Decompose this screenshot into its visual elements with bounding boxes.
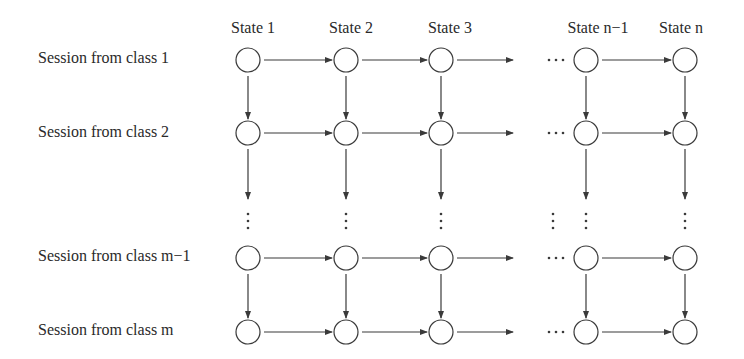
ellipsis-vertical-dot <box>552 213 555 216</box>
ellipsis-horizontal-dot <box>548 257 551 260</box>
ellipsis-vertical-dot <box>345 213 348 216</box>
state-node <box>574 121 598 145</box>
state-node <box>236 48 260 72</box>
ellipsis-horizontal-dot <box>562 331 565 334</box>
ellipsis-vertical-dot <box>684 220 687 223</box>
diagram-graphics <box>0 0 744 359</box>
ellipsis-vertical-dot <box>247 227 250 230</box>
state-node <box>429 48 453 72</box>
ellipsis-horizontal-dot <box>555 132 558 135</box>
state-node <box>673 246 697 270</box>
ellipsis-horizontal-dot <box>548 132 551 135</box>
ellipsis-horizontal-dot <box>562 257 565 260</box>
ellipsis-vertical-dot <box>440 213 443 216</box>
state-node <box>334 48 358 72</box>
state-node <box>236 320 260 344</box>
ellipsis-vertical-dot <box>684 227 687 230</box>
ellipsis-vertical-dot <box>247 220 250 223</box>
state-node <box>334 246 358 270</box>
state-node <box>429 121 453 145</box>
ellipsis-vertical-dot <box>440 227 443 230</box>
state-node <box>574 320 598 344</box>
ellipsis-horizontal-dot <box>548 331 551 334</box>
state-node <box>236 246 260 270</box>
ellipsis-vertical-dot <box>684 213 687 216</box>
state-node <box>673 48 697 72</box>
state-node <box>673 121 697 145</box>
ellipsis-vertical-dot <box>552 220 555 223</box>
ellipsis-horizontal-dot <box>555 257 558 260</box>
ellipsis-vertical-dot <box>552 227 555 230</box>
ellipsis-vertical-dot <box>585 220 588 223</box>
ellipsis-horizontal-dot <box>562 59 565 62</box>
ellipsis-horizontal-dot <box>555 59 558 62</box>
state-node <box>429 320 453 344</box>
state-node <box>673 320 697 344</box>
state-node <box>236 121 260 145</box>
ellipsis-vertical-dot <box>440 220 443 223</box>
ellipsis-horizontal-dot <box>562 132 565 135</box>
ellipsis-vertical-dot <box>585 227 588 230</box>
ellipsis-vertical-dot <box>247 213 250 216</box>
state-node <box>429 246 453 270</box>
ellipsis-vertical-dot <box>345 227 348 230</box>
state-node <box>334 320 358 344</box>
ellipsis-vertical-dot <box>585 213 588 216</box>
ellipsis-horizontal-dot <box>555 331 558 334</box>
ellipsis-vertical-dot <box>345 220 348 223</box>
state-node <box>574 48 598 72</box>
state-node <box>334 121 358 145</box>
state-node <box>574 246 598 270</box>
ellipsis-horizontal-dot <box>548 59 551 62</box>
